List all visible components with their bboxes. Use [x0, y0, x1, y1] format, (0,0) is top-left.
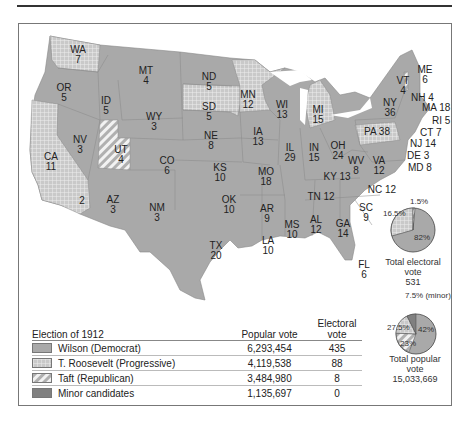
- state-label-wa: WA7: [70, 45, 86, 65]
- roosevelt-swatch: [32, 358, 52, 368]
- state-label-mo: MO18: [258, 167, 274, 187]
- state-label-il: IL29: [284, 143, 295, 163]
- state-label-mt: MT4: [139, 66, 153, 86]
- state-label-nc: NC 12: [368, 185, 396, 195]
- electoral-pie-caption: Total electoral vote531: [378, 257, 448, 287]
- col-popular-vote: Popular vote: [232, 329, 307, 340]
- legend-title: Election of 1912: [32, 329, 232, 340]
- state-label-ct: CT 7: [420, 128, 442, 138]
- wilson-swatch: [32, 343, 52, 353]
- popular-pie-caption: Total popular vote15,033,669: [380, 354, 450, 384]
- state-label-ny: NY36: [383, 98, 397, 118]
- state-label-nd: ND5: [202, 72, 216, 92]
- popular-wilson-pct: 42%: [418, 325, 434, 334]
- state-label-ut: UT4: [114, 145, 127, 165]
- state-label-ma: MA 18: [422, 103, 450, 113]
- state-label-sd: SD5: [202, 102, 216, 122]
- state-label-wy: WY3: [146, 112, 162, 132]
- popular-taft-pct: 23%: [400, 339, 416, 348]
- state-label-tx: TX20: [210, 241, 223, 261]
- legend-row-wilson: Wilson (Democrat) 6,293,454 435: [32, 341, 362, 356]
- state-label-tn: TN 12: [307, 192, 334, 202]
- legend-table: Election of 1912 Popular vote Electoral …: [32, 326, 362, 400]
- state-label-az: AZ3: [107, 195, 120, 215]
- popular-vote: 3,484,980: [232, 373, 307, 384]
- legend-row-minor: Minor candidates 1,135,697 0: [32, 386, 362, 400]
- electoral-vote: 88: [307, 358, 367, 369]
- state-label-mi: MI15: [312, 105, 323, 125]
- popular-vote: 6,293,454: [232, 343, 307, 354]
- state-label-me: ME6: [418, 65, 433, 85]
- popular-vote: 4,119,538: [232, 358, 307, 369]
- state-label-al: AL12: [310, 215, 322, 235]
- state-label-or: OR5: [57, 83, 72, 103]
- state-label-ms: MS10: [285, 220, 300, 240]
- state-label-ca-split: 2: [79, 196, 85, 206]
- state-label-co: CO6: [160, 156, 175, 176]
- state-label-ca: CA11: [44, 152, 58, 172]
- legend-header: Election of 1912 Popular vote Electoral …: [32, 326, 362, 341]
- col-electoral-vote: Electoral vote: [307, 318, 367, 340]
- state-label-ia: IA13: [252, 127, 263, 147]
- state-label-nv: NV3: [73, 135, 87, 155]
- state-label-fl: FL6: [358, 260, 370, 280]
- state-label-ga: GA14: [336, 219, 350, 239]
- state-label-nm: NM3: [149, 203, 165, 223]
- minor-swatch: [32, 388, 52, 398]
- state-label-md: MD 8: [408, 163, 432, 173]
- state-label-la: LA10: [262, 236, 274, 256]
- electoral-wilson-pct: 82%: [414, 233, 430, 242]
- state-label-sc: SC9: [359, 203, 373, 223]
- state-label-in: IN15: [308, 143, 319, 163]
- state-label-va: VA12: [373, 156, 386, 176]
- state-label-nj: NJ 14: [410, 139, 436, 149]
- electoral-vote: 435: [307, 343, 367, 354]
- taft-swatch: [32, 373, 52, 383]
- popular-minor-pct: 7.5% (minor): [405, 291, 451, 300]
- state-label-ri: RI 5: [432, 116, 450, 126]
- legend-row-taft: Taft (Republican) 3,484,980 8: [32, 371, 362, 386]
- state-label-ar: AR9: [260, 204, 274, 224]
- candidate-name: T. Roosevelt (Progressive): [58, 358, 175, 369]
- candidate-name: Minor candidates: [58, 388, 134, 399]
- state-label-mn: MN12: [240, 90, 256, 110]
- candidate-name: Wilson (Democrat): [58, 343, 141, 354]
- state-label-wi: WI13: [276, 100, 288, 120]
- state-label-ok: OK10: [222, 195, 236, 215]
- electoral-roosevelt-pct: 16.5%: [383, 209, 406, 218]
- legend-row-roosevelt: T. Roosevelt (Progressive) 4,119,538 88: [32, 356, 362, 371]
- state-label-vt: VT4: [397, 76, 410, 96]
- electoral-vote: 0: [307, 388, 367, 399]
- state-label-oh: OH24: [331, 141, 346, 161]
- candidate-name: Taft (Republican): [58, 373, 134, 384]
- state-label-ks: KS10: [213, 163, 226, 183]
- electoral-taft-pct: 1.5%: [410, 197, 428, 206]
- popular-vote: 1,135,697: [232, 388, 307, 399]
- state-label-ky: KY 13: [323, 172, 350, 182]
- state-label-ne: NE8: [204, 131, 218, 151]
- popular-roosevelt-pct: 27.5%: [387, 323, 410, 332]
- electoral-vote: 8: [307, 373, 367, 384]
- state-label-pa: PA 38: [364, 127, 390, 137]
- state-label-de: DE 3: [407, 151, 429, 161]
- state-label-wv: WV8: [348, 156, 364, 176]
- state-label-id: ID5: [101, 96, 111, 116]
